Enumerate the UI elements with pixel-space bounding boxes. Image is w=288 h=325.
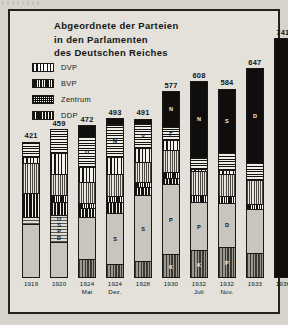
x-tick-label: 1936 [274, 280, 288, 288]
bar-segment-spd: S [135, 195, 151, 261]
bar-segment-ddp [23, 193, 39, 217]
bar-1920[interactable]: 459USPD [50, 115, 68, 278]
bar-1936[interactable]: 741 [274, 24, 288, 278]
bar-segment-kpd: K [191, 250, 207, 278]
bar-segment-spd: P [163, 184, 179, 254]
segment-label: D [84, 149, 90, 155]
bar-segment-bvp [51, 195, 67, 202]
bar-value-label: 577 [164, 81, 177, 90]
bar-segment-nsdap [79, 126, 95, 136]
bar-value-label: 491 [136, 108, 149, 117]
x-tick-label: 1928 [134, 280, 152, 288]
bar-column: NPK [190, 81, 208, 278]
bar-segment-spd [247, 209, 263, 252]
bar-1924-Dez-[interactable]: 493NS [106, 104, 124, 278]
bar-segment-zentrum [219, 174, 235, 197]
x-tick-label: 1932Juli [190, 280, 208, 296]
bar-segment-dnvp: F [163, 127, 179, 140]
bar-segment-zentrum [107, 174, 123, 196]
bar-segment-kpd [107, 264, 123, 278]
segment-label: D [252, 113, 258, 119]
bar-1919[interactable]: 421 [22, 128, 40, 278]
bar-segment-nsdap: D [247, 69, 263, 162]
bar-segment-spd: S [107, 213, 123, 265]
bar-segment-ddp [79, 208, 95, 217]
bar-segment-zentrum [51, 174, 67, 195]
bar-segment-nsdap: N [163, 92, 179, 127]
bar-1928[interactable]: 491VS [134, 105, 152, 278]
bar-1932-Nov-[interactable]: 584SDP [218, 75, 236, 278]
x-tick-label: 1930 [162, 280, 180, 288]
bar-1924-Mai[interactable]: 472D [78, 111, 96, 278]
segment-label: N [168, 106, 174, 112]
bar-segment-zentrum [247, 180, 263, 204]
bar-column: USPD [50, 129, 68, 278]
bar-segment-dnvp: N [107, 124, 123, 157]
bar-segment-dvp [163, 140, 179, 150]
bar-segment-ddp [51, 202, 67, 215]
bar-segment-spd [79, 217, 95, 259]
segment-label: K [168, 264, 174, 270]
plot-area: 421459USPD472D493NS491VS577NFPK608NPK584… [22, 29, 272, 278]
bar-segment-dnvp [219, 153, 235, 170]
bar-segment-bvp [191, 195, 207, 202]
bar-segment-spd: D [219, 203, 235, 247]
bar-1932-Juli[interactable]: 608NPK [190, 67, 208, 278]
bar-segment-dnvp: V [135, 124, 151, 148]
bar-group: 421459USPD472D493NS491VS577NFPK608NPK584… [22, 29, 272, 278]
bar-segment-dnvp [23, 143, 39, 157]
segment-label: K [196, 262, 202, 268]
bar-segment-dvp [135, 148, 151, 163]
bar-value-label: 459 [53, 119, 66, 128]
bar-segment-kpd [135, 261, 151, 278]
bar-segment-dnvp [191, 157, 207, 169]
bar-column: NFPK [162, 91, 180, 278]
bar-segment-ddp [135, 187, 151, 195]
bar-1933[interactable]: 647D [246, 54, 264, 278]
bar-segment-uspd: USPD [51, 215, 67, 242]
bar-segment-uspd [23, 217, 39, 224]
bar-column [22, 142, 40, 278]
bar-segment-kpd: K [163, 254, 179, 278]
x-axis: 191919201924Mai1924Dez.192819301932Juli1… [22, 278, 272, 306]
x-tick-label: 1924Mai [78, 280, 96, 296]
x-tick-label: 1932Nov. [218, 280, 236, 296]
segment-label: USPD [56, 216, 62, 241]
bar-segment-dvp [51, 153, 67, 174]
bar-value-label: 493 [108, 108, 121, 117]
bar-segment-zentrum [23, 163, 39, 192]
bar-segment-spd [23, 224, 39, 278]
bar-segment-nsdap: N [191, 82, 207, 156]
x-tick-label: 1920 [50, 280, 68, 288]
bar-segment-dnvp [247, 163, 263, 180]
bar-segment-dvp [79, 167, 95, 182]
segment-label: F [168, 131, 174, 137]
x-tick-label: 1924Dez. [106, 280, 124, 296]
bar-value-label: 472 [80, 115, 93, 124]
bar-1930[interactable]: 577NFPK [162, 77, 180, 278]
bar-column: NS [106, 118, 124, 278]
bar-segment-zentrum [135, 162, 151, 182]
bar-value-label: 421 [25, 131, 38, 140]
bar-segment-zentrum [191, 171, 207, 195]
segment-label: N [112, 138, 118, 144]
segment-label: P [196, 224, 202, 230]
bar-column [274, 38, 288, 278]
bar-segment-kpd [247, 253, 263, 278]
segment-label: S [112, 236, 118, 242]
bar-segment-dnvp: D [79, 137, 95, 168]
segment-label: D [224, 222, 230, 228]
segment-label: S [140, 226, 146, 232]
chart-frame: Abgeordnete der Parteien in den Parlamen… [8, 9, 280, 314]
bar-column: D [246, 68, 264, 278]
bar-value-label: 647 [248, 58, 261, 67]
bar-value-label: 608 [192, 71, 205, 80]
bar-column: D [78, 125, 96, 278]
segment-label: P [224, 260, 230, 266]
x-tick-label: 1919 [22, 280, 40, 288]
bar-column: SDP [218, 89, 236, 278]
bar-segment-ddp [107, 202, 123, 212]
bar-value-label: 741 [276, 28, 288, 37]
bar-segment-dvp [107, 157, 123, 174]
bar-column: VS [134, 119, 152, 278]
